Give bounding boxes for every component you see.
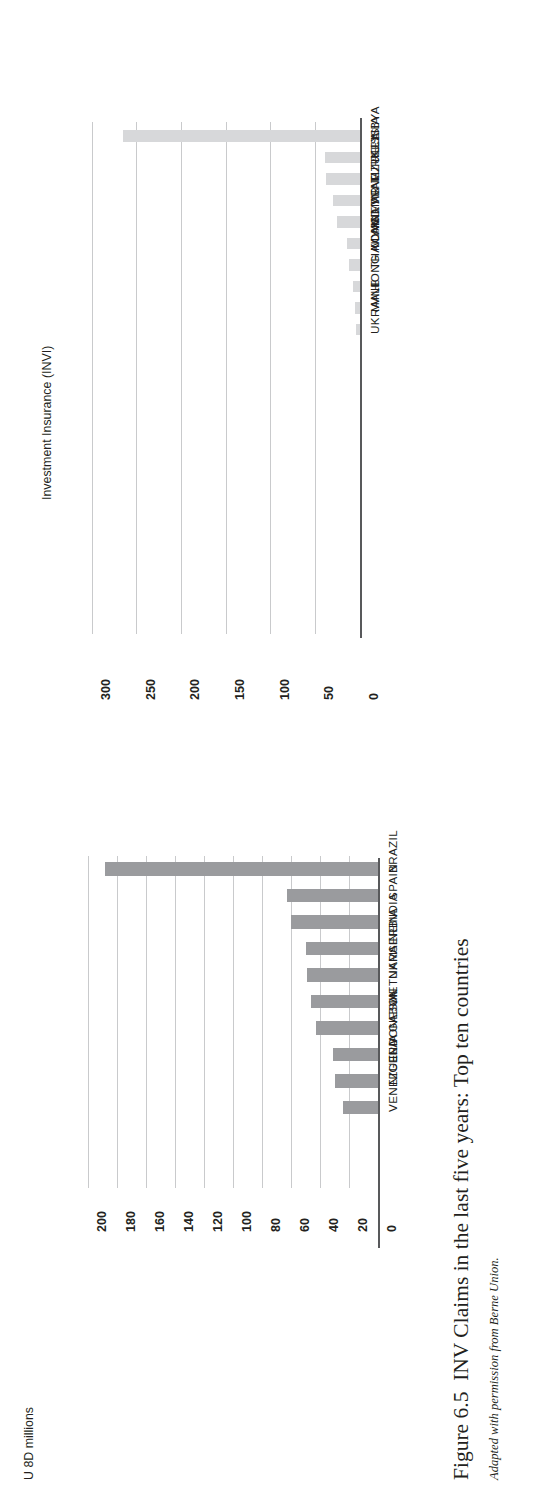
gridline [315,122,316,634]
gridline [181,122,182,634]
axis-tick-label: 250 [144,679,158,700]
bar [306,942,379,956]
figure-caption: Figure 6.5 INV Claims in the last five y… [449,938,474,1480]
gridline [92,122,93,634]
axis-tick-label: 180 [124,1211,138,1232]
bar [355,302,360,314]
bar [337,216,360,228]
bar [307,968,378,982]
bar [353,281,360,293]
axis-tick-label: 150 [233,679,247,700]
bar [349,259,360,271]
figure-title: INV Claims in the last five years: Top t… [449,938,473,1381]
axis-tick-label: 100 [240,1211,254,1232]
category-label: UKRAINE [368,280,381,334]
axis-tick-label: 300 [99,679,113,700]
bar [347,238,360,250]
axis-tick-label: 200 [188,679,202,700]
axis-tick-label: 40 [327,1218,341,1232]
bar [291,915,378,929]
bar [325,152,360,164]
chart-invi-plot-area [88,118,360,638]
bar [333,195,360,207]
bar [316,1021,378,1035]
chart-invi-baseline-axis [360,118,362,638]
bar [311,995,378,1009]
axis-tick-label: 60 [298,1218,312,1232]
bar [356,324,360,336]
gridline [291,856,292,1188]
axis-tick-label: 50 [322,686,336,700]
bar [335,1074,379,1088]
figure-number: Figure 6.5 [449,1392,473,1480]
gridline [270,122,271,634]
axis-tick-label: 0 [367,693,381,700]
chart-export-credit-baseline-axis [378,858,380,1248]
gridline [146,856,147,1188]
bar [343,1101,378,1115]
gridline [88,856,89,1188]
category-label: VENEZUELA [386,1039,399,1112]
axis-tick-label: 160 [153,1211,167,1232]
bar [123,130,360,142]
gridline [136,122,137,634]
gridline [226,122,227,634]
axis-tick-label: 0 [385,1225,399,1232]
gridline [204,856,205,1188]
figure-credit: Adapted with permission from Berne Union… [487,1257,502,1480]
bar [105,862,378,876]
chart-investment-insurance: Investment Insurance (INVI) 050100150200… [0,0,543,800]
gridline [262,856,263,1188]
gridline [233,856,234,1188]
axis-tick-label: 140 [182,1211,196,1232]
bar [326,173,360,185]
chart-invi-title: Investment Insurance (INVI) [40,346,54,500]
axis-tick-label: 120 [211,1211,225,1232]
bar [287,889,378,903]
bar [333,1048,378,1062]
axis-tick-label: 20 [356,1218,370,1232]
axis-tick-label: 200 [95,1211,109,1232]
axis-unit-label: U 8D millions [22,1407,36,1480]
axis-tick-label: 100 [278,679,292,700]
axis-tick-label: 80 [269,1218,283,1232]
gridline [117,856,118,1188]
gridline [175,856,176,1188]
